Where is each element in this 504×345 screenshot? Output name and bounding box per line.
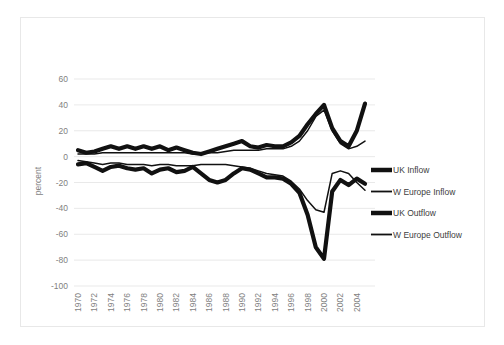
x-tick-label: 1982 [171, 293, 181, 312]
y-tick-label: -100 [51, 281, 68, 291]
x-tick-label: 1978 [139, 293, 149, 312]
y-tick-label: -20 [56, 178, 69, 188]
x-tick-label: 2002 [335, 293, 345, 312]
legend-label: W Europe Outflow [393, 230, 463, 240]
y-tick-label: 0 [63, 152, 68, 162]
x-tick-label: 2000 [319, 293, 329, 312]
y-tick-label: 40 [59, 100, 69, 110]
series-lines [78, 104, 365, 259]
y-tick-label: 60 [59, 74, 69, 84]
x-tick-label: 1992 [253, 293, 263, 312]
x-tick-label: 1980 [155, 293, 165, 312]
legend-label: UK Inflow [393, 165, 430, 175]
legend-label: W Europe Inflow [393, 187, 456, 197]
x-tick-label: 1988 [221, 293, 231, 312]
x-tick-label: 1974 [106, 293, 116, 312]
x-tick-label: 1970 [73, 293, 83, 312]
x-tick-label: 1972 [89, 293, 99, 312]
x-tick-label: 1998 [303, 293, 313, 312]
y-axis-title: percent [33, 166, 43, 195]
y-tick-label: -80 [56, 255, 69, 265]
x-tick-label: 1996 [286, 293, 296, 312]
y-tick-label: -60 [56, 229, 69, 239]
x-tick-label: 1990 [237, 293, 247, 312]
x-tick-label: 1976 [122, 293, 132, 312]
y-tick-label: 20 [59, 126, 69, 136]
y-tick-label: -40 [56, 203, 69, 213]
line-chart: 6040200-20-40-60-80-100 1970197219741976… [0, 0, 504, 345]
x-axis-tick-labels: 1970197219741976197819801982198419861988… [73, 293, 362, 312]
chart-legend: UK InflowW Europe InflowUK OutflowW Euro… [371, 165, 463, 240]
y-axis-tick-labels: 6040200-20-40-60-80-100 [51, 74, 68, 291]
x-tick-label: 1994 [270, 293, 280, 312]
x-tick-label: 1986 [204, 293, 214, 312]
x-tick-label: 1984 [188, 293, 198, 312]
legend-label: UK Outflow [393, 208, 437, 218]
x-tick-label: 2004 [352, 293, 362, 312]
